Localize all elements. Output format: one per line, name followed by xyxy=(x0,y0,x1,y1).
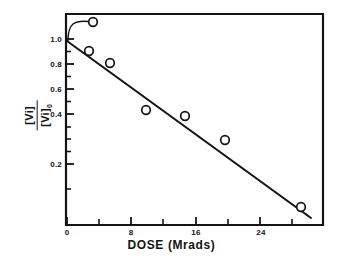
x-tick-label-0: 0 xyxy=(65,228,70,237)
x-tick-label-24: 24 xyxy=(256,228,265,237)
x-tick-label-16: 16 xyxy=(191,228,200,237)
y-axis-title-denominator: [Vi]0 xyxy=(39,104,52,127)
data-point xyxy=(142,106,151,115)
y-axis-title-denominator-text: [Vi] xyxy=(38,108,50,127)
y-tick-label-0.8: 0.8 xyxy=(40,60,62,69)
y-tick-label-1.0: 1.0 xyxy=(40,35,62,44)
y-tick-label-0.2: 0.2 xyxy=(40,160,62,169)
fit-line xyxy=(67,41,311,218)
data-point xyxy=(221,136,230,145)
y-axis-title-numerator: [Vi] xyxy=(24,106,35,125)
data-point xyxy=(85,47,94,56)
plot-frame xyxy=(66,14,323,225)
chart-figure: 1.0 0.8 0.6 0.4 0.2 0 8 16 24 DOSE (Mrad… xyxy=(0,0,343,265)
x-axis-title: DOSE (Mrads) xyxy=(0,238,343,252)
y-axis-title-denominator-subscript: 0 xyxy=(45,104,52,108)
data-point xyxy=(89,18,98,27)
x-tick-label-8: 8 xyxy=(129,228,134,237)
y-axis-title: [Vi] [Vi]0 xyxy=(8,85,68,145)
data-point xyxy=(297,203,306,212)
data-point xyxy=(106,59,115,68)
data-points xyxy=(85,18,306,212)
data-point xyxy=(181,112,190,121)
